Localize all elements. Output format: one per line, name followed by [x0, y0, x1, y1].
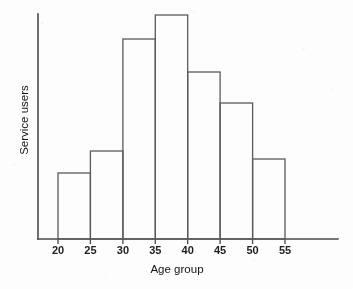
bar-40-45 — [188, 72, 220, 239]
bar-20-25 — [58, 173, 90, 239]
bar-30-35 — [123, 39, 155, 239]
x-tick-label-45: 45 — [214, 244, 226, 256]
x-axis-title: Age group — [150, 263, 203, 275]
x-tick-label-40: 40 — [182, 244, 194, 256]
bars-group — [58, 15, 285, 239]
x-tick-label-35: 35 — [149, 244, 161, 256]
x-tick-label-25: 25 — [84, 244, 96, 256]
x-tick-label-20: 20 — [52, 244, 64, 256]
x-tick-label-50: 50 — [246, 244, 258, 256]
x-tick-labels: 20 25 30 35 40 45 50 55 — [52, 244, 291, 256]
bar-35-40 — [155, 15, 187, 239]
x-tick-label-30: 30 — [117, 244, 129, 256]
bar-25-30 — [90, 151, 123, 239]
y-axis-title: Service users — [18, 85, 30, 155]
x-tick-label-55: 55 — [279, 244, 291, 256]
bar-50-55 — [253, 159, 285, 239]
bar-45-50 — [220, 103, 253, 239]
figure-container: 20 25 30 35 40 45 50 55 Age group Servic… — [0, 0, 353, 289]
histogram-chart: 20 25 30 35 40 45 50 55 Age group Servic… — [0, 0, 353, 289]
